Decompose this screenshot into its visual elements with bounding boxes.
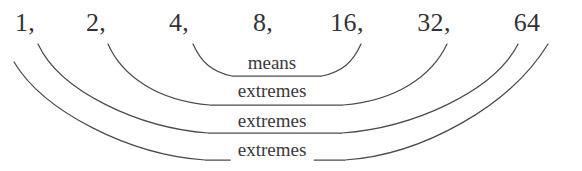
- diagram-canvas: 1, 2, 4, 8, 16, 32, 64 means extremes ex…: [0, 0, 582, 171]
- sequence-row: 1, 2, 4, 8, 16, 32, 64: [0, 6, 582, 42]
- sequence-term-2: 2,: [86, 6, 106, 40]
- arc-label-extremes-2: extremes: [231, 110, 314, 132]
- sequence-term-4: 4,: [169, 6, 189, 40]
- arc-label-extremes-3: extremes: [231, 139, 314, 161]
- sequence-term-64: 64: [514, 6, 541, 40]
- arc-label-extremes-1: extremes: [231, 80, 314, 102]
- sequence-term-16: 16,: [330, 6, 363, 40]
- arc-label-means: means: [241, 52, 304, 74]
- sequence-term-32: 32,: [417, 6, 450, 40]
- sequence-term-8: 8,: [253, 6, 273, 40]
- sequence-term-1: 1,: [15, 6, 35, 40]
